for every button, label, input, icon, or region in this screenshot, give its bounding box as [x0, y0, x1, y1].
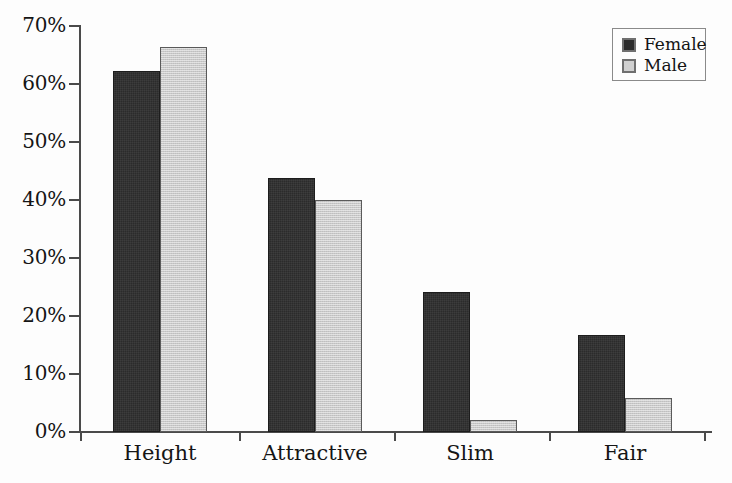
bar-attractive-female	[268, 178, 315, 432]
x-axis-label-slim: Slim	[390, 441, 550, 465]
y-axis-tick-label: 10%	[4, 363, 66, 383]
y-axis-tick	[69, 83, 80, 85]
bars-layer	[80, 20, 712, 432]
y-axis-tick-label: 40%	[4, 189, 66, 209]
bar-height-female	[113, 71, 160, 432]
bar-slim-male	[470, 420, 517, 432]
y-axis-tick-label: 20%	[4, 305, 66, 325]
chart-legend: Female Male	[612, 28, 706, 81]
legend-item-male: Male	[622, 55, 705, 76]
y-axis-tick-label: 60%	[4, 73, 66, 93]
y-axis-tick	[69, 431, 80, 433]
bar-height-male	[160, 47, 207, 432]
bar-fair-male	[625, 398, 672, 432]
x-axis-tick	[80, 432, 82, 441]
bar-slim-female	[423, 292, 470, 432]
legend-swatch-female-icon	[622, 38, 636, 52]
x-axis-tick	[239, 432, 241, 441]
y-axis-tick-label: 0%	[4, 421, 66, 441]
legend-label-male: Male	[644, 57, 687, 74]
x-axis-tick	[704, 432, 706, 441]
legend-label-female: Female	[644, 36, 707, 53]
x-axis-tick	[394, 432, 396, 441]
legend-item-female: Female	[622, 34, 705, 55]
y-axis-tick-label: 50%	[4, 131, 66, 151]
x-axis-label-height: Height	[80, 441, 240, 465]
y-axis-tick	[69, 373, 80, 375]
x-axis-label-fair: Fair	[545, 441, 705, 465]
y-axis-tick	[69, 141, 80, 143]
y-axis-tick	[69, 315, 80, 317]
x-axis-label-attractive: Attractive	[235, 441, 395, 465]
bar-attractive-male	[315, 200, 362, 432]
x-axis-tick	[549, 432, 551, 441]
legend-swatch-male-icon	[622, 59, 636, 73]
bar-chart: 0%10%20%30%40%50%60%70% HeightAttractive…	[0, 0, 732, 483]
y-axis-tick-label: 70%	[4, 15, 66, 35]
y-axis-tick	[69, 25, 80, 27]
y-axis-tick-label: 30%	[4, 247, 66, 267]
y-axis-tick	[69, 257, 80, 259]
y-axis-tick	[69, 199, 80, 201]
bar-fair-female	[578, 335, 625, 432]
